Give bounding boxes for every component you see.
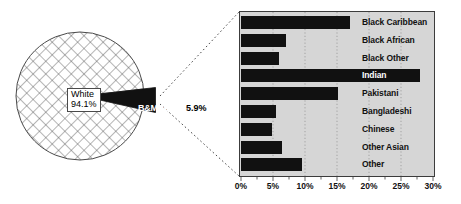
bar-chart-x-axis: 0%5%10%15%20%25%30% (239, 181, 439, 195)
pie-chart: White 94.1% B&MEG 5.9% (14, 16, 166, 176)
connector-line-bottom (160, 104, 239, 176)
x-axis-ticks (239, 177, 439, 182)
bar-category-label: Bangladeshi (362, 105, 411, 118)
x-axis-tick-label: 5% (267, 181, 279, 191)
pie-label-bmeg-value: 5.9% (186, 103, 207, 113)
bar-category-label: Pakistani (362, 87, 398, 100)
bar-chart-row: Chinese (240, 123, 434, 141)
bar-category-label: Black Other (362, 52, 409, 65)
bar (241, 158, 302, 171)
bar-chart-row: Black Other (240, 52, 434, 70)
x-axis-tick-label: 10% (296, 181, 313, 191)
bar (241, 52, 279, 65)
bar-chart-row: Pakistani (240, 87, 434, 105)
x-axis-tick-label: 30% (424, 181, 441, 191)
bar-chart-row: Black African (240, 34, 434, 52)
x-axis-tick-label: 0% (235, 181, 247, 191)
bar (241, 123, 272, 136)
bar-chart-rows: Black CaribbeanBlack AfricanBlack OtherI… (240, 12, 434, 176)
bar-chart-row: Indian (240, 69, 434, 87)
bar-category-label: Other (362, 158, 384, 171)
bar (241, 87, 338, 100)
bar-category-label: Other Asian (362, 141, 409, 154)
pie-label-white-value: 94.1% (71, 100, 97, 110)
bar-chart-row: Other (240, 158, 434, 176)
bar (241, 34, 286, 47)
bar (241, 141, 282, 154)
connector-line-top (160, 12, 239, 96)
bar (241, 105, 276, 118)
bar (241, 69, 420, 82)
bar-category-label: Chinese (362, 123, 394, 136)
x-axis-tick-label: 20% (360, 181, 377, 191)
figure-ethnicity-breakdown: White 94.1% B&MEG 5.9% Black CaribbeanBl… (0, 0, 461, 204)
bar-category-label: Black African (362, 34, 415, 47)
pie-label-white: White 94.1% (67, 88, 101, 112)
bar-chart-row: Other Asian (240, 141, 434, 159)
bar (241, 16, 350, 29)
x-axis-tick-label: 25% (392, 181, 409, 191)
bar-chart-row: Bangladeshi (240, 105, 434, 123)
pie-label-bmeg-name: B&MEG (138, 103, 171, 113)
bar-chart-row: Black Caribbean (240, 16, 434, 34)
bar-category-label: Indian (362, 69, 386, 82)
bar-category-label: Black Caribbean (362, 16, 427, 29)
bar-chart-panel: Black CaribbeanBlack AfricanBlack OtherI… (239, 11, 435, 177)
x-axis-tick-label: 15% (328, 181, 345, 191)
